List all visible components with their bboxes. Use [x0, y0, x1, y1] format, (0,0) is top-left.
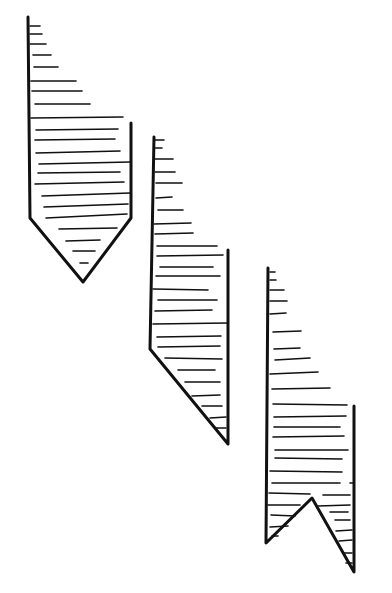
hatch-line — [270, 471, 342, 472]
hatch-line — [31, 117, 123, 118]
hatch-line — [272, 388, 330, 389]
ribbon-illustration — [0, 0, 392, 593]
hatch-line — [38, 172, 120, 173]
hatch-line — [339, 540, 352, 541]
hatch-line — [155, 233, 193, 234]
ribbon-notched-end — [266, 268, 354, 572]
hatching-lines — [153, 140, 228, 428]
ribbon-pointed-end — [28, 17, 131, 282]
hatch-line — [66, 240, 100, 241]
hatch-line — [318, 505, 350, 506]
hatch-line — [157, 336, 221, 337]
hatch-line — [156, 197, 172, 198]
hatch-line — [270, 372, 318, 374]
hatch-line — [192, 395, 220, 396]
hatch-line — [336, 530, 352, 531]
hatch-line — [275, 358, 310, 360]
hatch-line — [270, 313, 286, 314]
hatching-lines — [30, 26, 130, 263]
hatch-line — [275, 458, 342, 459]
hatch-line — [273, 404, 347, 405]
hatch-line — [210, 417, 226, 418]
hatch-line — [153, 289, 208, 290]
hatch-line — [39, 162, 130, 164]
hatch-line — [274, 348, 300, 349]
hatch-line — [155, 310, 212, 311]
hatch-line — [158, 346, 220, 347]
hatch-line — [273, 436, 344, 437]
hatch-line — [153, 323, 228, 324]
hatch-line — [165, 358, 222, 359]
hatch-line — [273, 331, 301, 332]
hatch-line — [271, 515, 295, 516]
hatch-line — [157, 255, 223, 256]
ribbon-diagonal-end — [150, 137, 228, 444]
ribbon-drawing — [0, 0, 392, 593]
hatch-line — [36, 151, 120, 153]
hatch-line — [274, 416, 346, 417]
hatch-line — [44, 204, 128, 207]
ribbon-outline — [28, 17, 131, 282]
hatch-line — [36, 129, 118, 130]
hatch-line — [269, 493, 310, 494]
hatch-line — [154, 223, 191, 224]
hatch-line — [42, 193, 130, 196]
hatch-line — [46, 214, 127, 218]
hatch-line — [35, 139, 115, 140]
hatching-lines — [268, 272, 353, 563]
hatch-line — [35, 182, 124, 184]
hatch-line — [59, 228, 117, 229]
